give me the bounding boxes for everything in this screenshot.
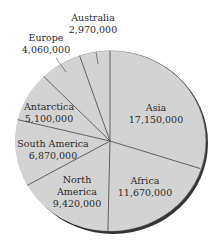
label-north-america-name2: America bbox=[53, 186, 101, 198]
label-north-america-value: 9,420,000 bbox=[53, 198, 101, 210]
label-antarctica-name: Antarctica bbox=[24, 101, 74, 113]
label-africa-value: 11,670,000 bbox=[118, 187, 172, 199]
label-south-america-value: 6,870,000 bbox=[17, 150, 88, 162]
label-europe: Europe 4,060,000 bbox=[22, 32, 70, 56]
label-asia-name: Asia bbox=[129, 102, 183, 114]
label-australia-name: Australia bbox=[69, 12, 117, 24]
label-asia: Asia 17,150,000 bbox=[129, 102, 183, 126]
label-europe-value: 4,060,000 bbox=[22, 44, 70, 56]
label-antarctica-value: 5,100,000 bbox=[24, 113, 74, 125]
label-north-america: North America 9,420,000 bbox=[53, 174, 101, 210]
label-africa: Africa 11,670,000 bbox=[118, 175, 172, 199]
label-australia: Australia 2,970,000 bbox=[69, 12, 117, 36]
label-south-america: South America 6,870,000 bbox=[17, 138, 88, 162]
label-australia-value: 2,970,000 bbox=[69, 24, 117, 36]
label-north-america-name1: North bbox=[53, 174, 101, 186]
label-asia-value: 17,150,000 bbox=[129, 114, 183, 126]
label-south-america-name: South America bbox=[17, 138, 88, 150]
label-europe-name: Europe bbox=[22, 32, 70, 44]
label-antarctica: Antarctica 5,100,000 bbox=[24, 101, 74, 125]
label-africa-name: Africa bbox=[118, 175, 172, 187]
